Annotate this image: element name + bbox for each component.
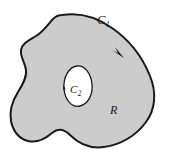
- inner-curve-label: C2: [70, 84, 81, 95]
- outer-curve-label: C1: [97, 14, 109, 27]
- region-diagram-svg: [0, 0, 169, 165]
- outer-curve-label-base: C: [97, 13, 105, 27]
- inner-curve-label-base: C: [70, 83, 77, 95]
- outer-curve-label-subscript: 1: [106, 20, 110, 29]
- region-label: R: [110, 104, 117, 116]
- figure-container: C1 C2 R: [0, 0, 169, 165]
- inner-curve-label-subscript: 2: [78, 90, 82, 98]
- region-shaded-area: [10, 14, 154, 147]
